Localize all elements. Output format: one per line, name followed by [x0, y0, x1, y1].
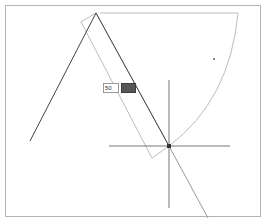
angle-confirm-button[interactable]	[121, 83, 136, 93]
angle-value-input[interactable]	[103, 83, 119, 93]
stray-point	[213, 58, 215, 60]
pivot-handle[interactable]	[167, 144, 171, 148]
angle-line-right[interactable]	[96, 13, 169, 146]
geometry-drawing[interactable]	[0, 0, 270, 224]
angle-line-left[interactable]	[30, 13, 96, 141]
angle-input-group	[103, 83, 136, 93]
diagonal-line[interactable]	[169, 146, 208, 218]
